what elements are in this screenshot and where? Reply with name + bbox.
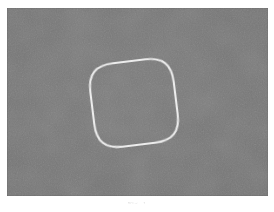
page-canvas: Fig. 1 xyxy=(0,0,274,212)
figure-caption-text: Fig. 1 xyxy=(128,200,147,206)
figure-caption: Fig. 1 xyxy=(0,200,274,206)
rounded-square-outline xyxy=(87,56,181,150)
scanned-figure-plate xyxy=(7,8,268,196)
figure-shape-layer xyxy=(7,8,268,196)
